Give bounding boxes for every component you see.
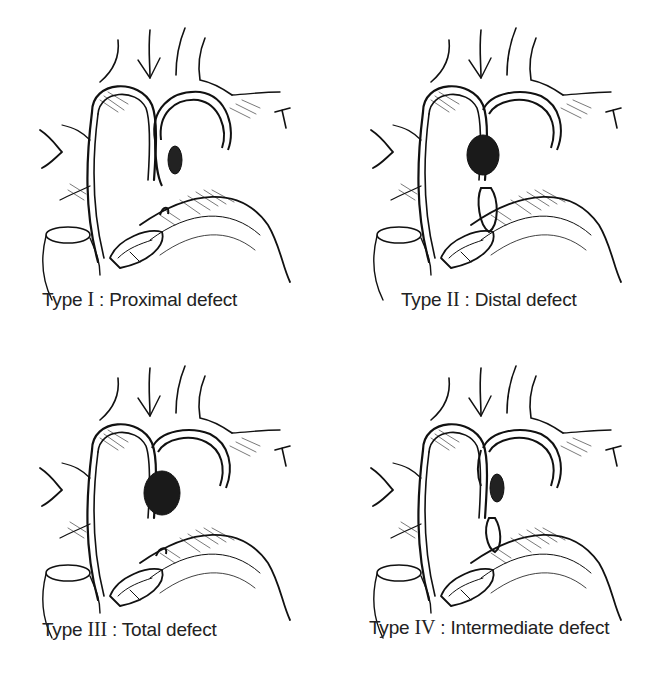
caption-type-4: Type IV : Intermediate defect (369, 616, 609, 639)
panel-type-4: Type IV : Intermediate defect (331, 338, 662, 676)
caption-type-word: Type (42, 619, 82, 640)
panel-type-1: Type I : Proximal defect (0, 0, 331, 338)
caption-type-3: Type III : Total defect (42, 618, 217, 641)
caption-separator: : (94, 289, 109, 310)
panel-type-3: Type III : Total defect (0, 338, 331, 676)
caption-type-2: Type II : Distal defect (401, 288, 577, 311)
caption-roman-numeral: III (88, 618, 107, 640)
caption-separator: : (435, 617, 450, 638)
caption-type-word: Type (401, 289, 441, 310)
caption-description: Distal defect (475, 289, 577, 310)
caption-type-1: Type I : Proximal defect (42, 288, 237, 311)
caption-separator: : (107, 619, 122, 640)
caption-roman-numeral: II (447, 288, 460, 310)
panel-type-2: Type II : Distal defect (331, 0, 662, 338)
caption-separator: : (459, 289, 474, 310)
caption-roman-numeral: IV (415, 616, 436, 638)
caption-description: Intermediate defect (450, 617, 609, 638)
caption-type-word: Type (369, 617, 409, 638)
caption-type-word: Type (42, 289, 82, 310)
caption-description: Total defect (122, 619, 217, 640)
caption-description: Proximal defect (109, 289, 237, 310)
